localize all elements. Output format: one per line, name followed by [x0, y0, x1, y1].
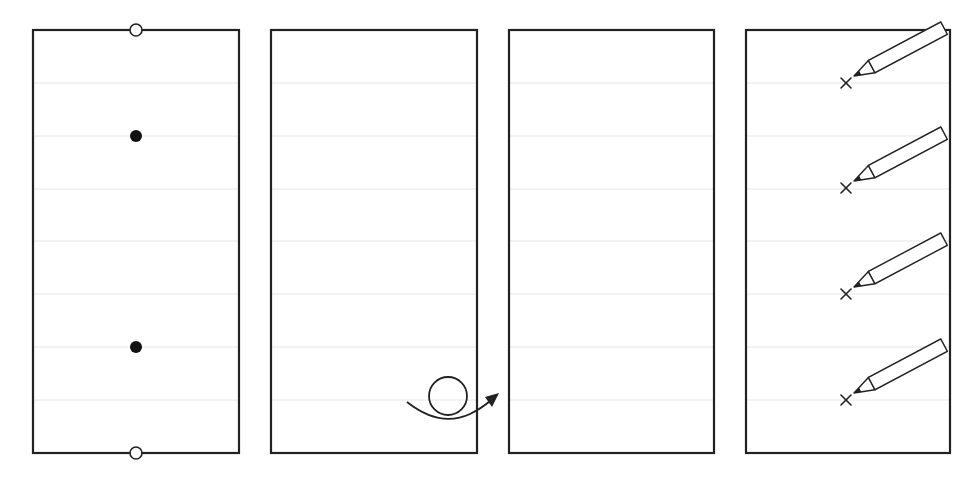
mark-group	[841, 22, 947, 88]
arrowhead-icon	[485, 393, 499, 407]
hollow-circle-icon	[130, 24, 142, 36]
diagram-canvas	[0, 0, 966, 482]
curl-arrow-icon	[407, 377, 499, 419]
instruction-diagram: Four-step paper marking instructions Ste…	[0, 0, 966, 482]
mark-group	[841, 339, 947, 405]
loop-circle	[429, 377, 467, 415]
fold-guide-lines	[33, 83, 950, 400]
pencil-icon	[851, 233, 948, 293]
mark-group	[841, 127, 947, 193]
hollow-circle-icon	[130, 447, 142, 459]
filled-dot-icon	[130, 341, 142, 353]
step-4-marks	[841, 22, 947, 405]
pencil-icon	[851, 339, 948, 399]
filled-dot-icon	[130, 130, 142, 142]
mark-group	[841, 233, 947, 299]
